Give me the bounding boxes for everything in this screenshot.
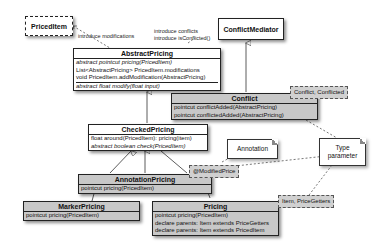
class-name: PricedItem <box>31 23 67 30</box>
member: void PricedItem.addModification(Abstract… <box>76 74 218 82</box>
member: List<AbstractPricing> PricedItem.modific… <box>76 67 218 75</box>
label-introduce-conflicts: introduce conflicts introduce isConflict… <box>154 28 210 41</box>
template-param-conflict: Conflict, Conflicted <box>290 86 348 99</box>
param-text: @ModifiedPrice <box>193 168 235 174</box>
member: abstract pointcut pricing(PricedItem) <box>76 59 218 67</box>
note-text: Type parameter <box>328 144 358 160</box>
note-line-2: parameter <box>328 152 358 159</box>
note-text: Annotation <box>237 145 268 153</box>
member: declare parents: Item extends PricedItem <box>155 227 276 235</box>
class-name: AbstractPricing <box>74 49 220 59</box>
class-name: ConflictMediator <box>223 26 278 33</box>
param-text: Conflict, Conflicted <box>294 89 344 95</box>
member: pointcut pricing(PricedItem) <box>26 212 137 220</box>
template-param-modified-price: @ModifiedPrice <box>189 165 239 178</box>
class-checked-pricing[interactable]: CheckedPricing float around(PricedItem):… <box>88 124 208 151</box>
class-name: CheckedPricing <box>89 125 207 135</box>
label-text: introduce modifications <box>78 33 134 39</box>
member: abstract float modify(float input) <box>76 82 218 91</box>
note-annotation: Annotation <box>227 139 278 159</box>
note-type-parameter: Type parameter <box>319 138 366 166</box>
member: float around(PricedItem): pricing(item) <box>91 135 205 143</box>
template-param-item: Item, PriceGetters <box>278 195 334 208</box>
class-name: MarkerPricing <box>24 202 139 212</box>
label-line-2: introduce isConflicted() <box>154 35 210 42</box>
note-line-1: Type <box>335 144 349 151</box>
member: abstract boolean check(PricedItem) <box>91 143 205 151</box>
class-pricing[interactable]: Pricing pointcut pricing(PricedItem) dec… <box>152 201 279 236</box>
class-abstract-pricing[interactable]: AbstractPricing abstract pointcut pricin… <box>73 48 221 91</box>
member: pointcut pricing(PricedItem) <box>155 212 276 220</box>
class-conflict-mediator[interactable]: ConflictMediator <box>218 18 284 40</box>
class-priced-item[interactable]: PricedItem <box>25 16 73 36</box>
label-introduce-modifications: introduce modifications <box>78 33 134 40</box>
member: pointcut pricing(PricedItem) <box>81 185 209 193</box>
class-marker-pricing[interactable]: MarkerPricing pointcut pricing(PricedIte… <box>23 201 140 221</box>
param-text: Item, PriceGetters <box>282 198 330 204</box>
class-name: Pricing <box>153 202 278 212</box>
member: pointcut conflictAdded(AbstractPricing) <box>174 104 315 112</box>
member: declare parents: Item extends PriceGette… <box>155 220 276 228</box>
member: pointcut conflictedAdded(AbstractPricing… <box>174 112 315 120</box>
